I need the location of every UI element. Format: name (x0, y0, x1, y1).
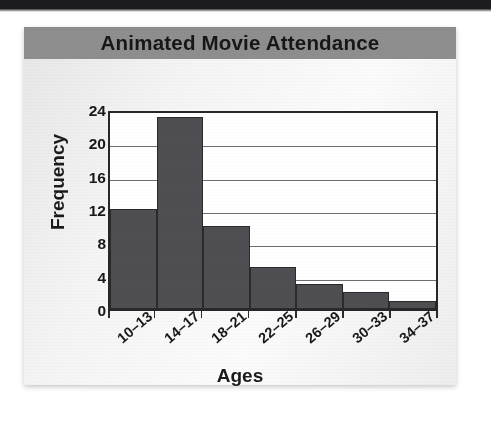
y-axis-tick-label: 24 (89, 103, 106, 119)
bar-slot (203, 113, 250, 309)
chart-title-banner: Animated Movie Attendance (24, 27, 456, 59)
textbook-chart-card: Animated Movie Attendance Frequency 0481… (24, 27, 456, 385)
x-axis-title: Ages (24, 365, 456, 387)
bar[interactable] (343, 292, 390, 309)
bar-slot (343, 113, 390, 309)
chart-area: Frequency 04812162024 10–1314–1718–2122–… (24, 59, 456, 385)
bar[interactable] (110, 209, 157, 309)
x-label-slot: 26–29 (297, 315, 344, 371)
y-axis-tick-label: 12 (89, 203, 106, 219)
y-axis-tick-label: 0 (97, 303, 106, 319)
y-axis-tick-label: 16 (89, 170, 106, 186)
y-axis-title: Frequency (47, 112, 69, 252)
y-axis-tick-label: 8 (97, 237, 106, 253)
bar[interactable] (296, 284, 343, 309)
bar-series (110, 113, 436, 309)
y-axis-tick-label: 20 (89, 137, 106, 153)
x-label-slot: 34–37 (391, 315, 438, 371)
bar[interactable] (250, 267, 297, 309)
bar-slot (389, 113, 436, 309)
x-label-slot: 30–33 (344, 315, 391, 371)
bar[interactable] (389, 301, 436, 309)
y-axis-tick-labels: 04812162024 (70, 111, 106, 311)
y-axis-tick-label: 4 (97, 270, 106, 286)
plot-area (108, 111, 438, 311)
x-label-slot: 10–13 (108, 315, 155, 371)
x-label-slot: 14–17 (155, 315, 202, 371)
x-label-slot: 22–25 (249, 315, 296, 371)
bar-slot (110, 113, 157, 309)
bar[interactable] (203, 226, 250, 309)
x-label-slot: 18–21 (202, 315, 249, 371)
chart-title: Animated Movie Attendance (101, 31, 380, 55)
bar-slot (296, 113, 343, 309)
bar-slot (250, 113, 297, 309)
bar-slot (157, 113, 204, 309)
x-axis-tick-labels: 10–1314–1718–2122–2526–2930–3334–37 (108, 315, 438, 371)
scan-top-band (0, 0, 491, 9)
bar[interactable] (157, 117, 204, 309)
